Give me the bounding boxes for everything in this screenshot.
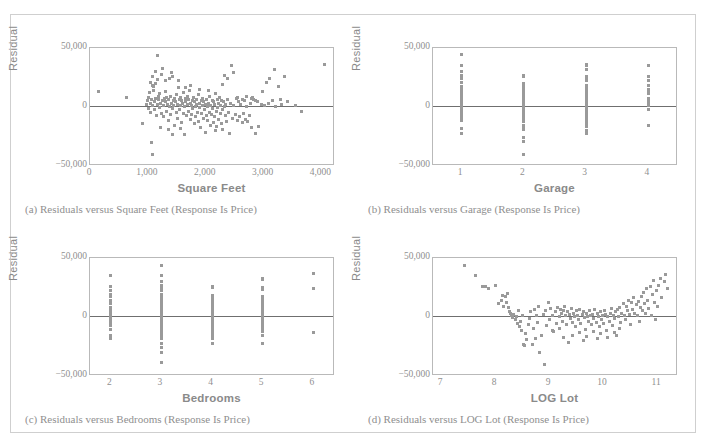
data-point xyxy=(545,324,548,327)
data-point xyxy=(515,315,518,318)
data-point xyxy=(549,307,552,310)
y-tick-mid-c: 0 xyxy=(35,310,87,320)
data-point xyxy=(522,153,525,156)
data-point xyxy=(613,331,616,334)
y-tick-mid-d: 0 xyxy=(378,310,430,320)
data-point xyxy=(211,286,214,289)
data-point xyxy=(647,64,650,67)
data-point xyxy=(647,307,650,310)
data-point xyxy=(522,140,525,143)
data-point xyxy=(605,329,608,332)
y-axis-label-a: Residual xyxy=(7,26,19,71)
data-point xyxy=(197,93,200,96)
data-point xyxy=(257,125,260,128)
data-point xyxy=(540,334,543,337)
data-point xyxy=(574,325,577,328)
data-point xyxy=(196,111,199,114)
data-point xyxy=(610,307,613,310)
data-point xyxy=(156,78,159,81)
data-point xyxy=(628,313,631,316)
data-point xyxy=(226,77,229,80)
x-tick-label: 3 xyxy=(158,377,163,387)
data-point xyxy=(153,108,156,111)
x-tick-label: 3,000 xyxy=(252,167,273,177)
data-point xyxy=(632,296,635,299)
data-point xyxy=(561,320,564,323)
data-point xyxy=(652,279,655,282)
panel-residuals-square-feet: Residual 50,000 0 −50,000 01,0002,0003,0… xyxy=(11,15,354,225)
data-point xyxy=(214,129,217,132)
data-point xyxy=(241,121,244,124)
plot-area-b xyxy=(432,47,677,165)
data-point xyxy=(611,324,614,327)
data-point xyxy=(591,313,594,316)
data-point xyxy=(245,105,248,108)
data-point xyxy=(205,114,208,117)
data-point xyxy=(145,103,148,106)
data-point xyxy=(194,115,197,118)
data-point xyxy=(169,95,172,98)
data-point xyxy=(214,92,217,95)
data-point xyxy=(154,70,157,73)
data-point xyxy=(160,73,163,76)
data-point xyxy=(460,127,463,130)
data-point xyxy=(300,110,303,113)
x-tick-label: 1 xyxy=(458,167,463,177)
data-point xyxy=(160,274,163,277)
data-point xyxy=(207,89,210,92)
data-point xyxy=(263,104,266,107)
y-tick-top-d: 50,000 xyxy=(378,251,430,261)
data-point xyxy=(250,126,253,129)
data-point xyxy=(624,318,627,321)
data-point xyxy=(141,122,144,125)
data-point xyxy=(529,310,532,313)
panel-caption-a: (a) Residuals versus Square Feet (Respon… xyxy=(25,203,257,215)
data-point xyxy=(536,321,539,324)
data-point xyxy=(268,77,271,80)
data-point xyxy=(241,98,244,101)
data-point xyxy=(170,71,173,74)
data-point xyxy=(162,104,165,107)
data-point xyxy=(630,301,633,304)
data-point xyxy=(663,280,666,283)
data-point xyxy=(271,99,274,102)
x-axis-label-c: Bedrooms xyxy=(89,392,334,404)
x-tick-label: 9 xyxy=(546,377,551,387)
data-point xyxy=(463,264,466,267)
x-tick-label: 4,000 xyxy=(310,167,331,177)
data-point xyxy=(224,114,227,117)
y-axis-label-b: Residual xyxy=(350,26,362,71)
data-point xyxy=(592,330,595,333)
data-point xyxy=(277,85,280,88)
data-point xyxy=(568,313,571,316)
data-point xyxy=(522,128,525,131)
data-point xyxy=(221,83,224,86)
data-point xyxy=(585,68,588,71)
data-point xyxy=(563,305,566,308)
data-point xyxy=(160,346,163,349)
data-point xyxy=(606,315,609,318)
data-point xyxy=(236,96,239,99)
plot-area-c xyxy=(89,257,334,375)
data-point xyxy=(551,329,554,332)
y-tick-bottom-a: −50,000 xyxy=(35,159,87,169)
data-point xyxy=(152,89,155,92)
data-point xyxy=(267,102,270,105)
data-point xyxy=(613,317,616,320)
data-point xyxy=(602,322,605,325)
data-point xyxy=(650,314,653,317)
data-point xyxy=(585,335,588,338)
data-point xyxy=(647,75,650,78)
data-point xyxy=(198,88,201,91)
data-point xyxy=(248,114,251,117)
data-point xyxy=(177,79,180,82)
data-point xyxy=(543,363,546,366)
data-point xyxy=(149,81,152,84)
data-point xyxy=(578,331,581,334)
y-axis-ticks-c: 50,000 0 −50,000 xyxy=(31,257,87,375)
data-point xyxy=(109,285,112,288)
y-axis-ticks-a: 50,000 0 −50,000 xyxy=(31,47,87,165)
data-point xyxy=(655,289,658,292)
data-point xyxy=(584,328,587,331)
data-point xyxy=(273,68,276,71)
